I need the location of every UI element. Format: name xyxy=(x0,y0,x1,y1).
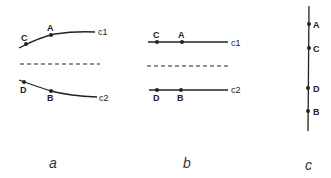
point-b-dot xyxy=(179,88,183,92)
line-c1-label: c1 xyxy=(231,38,241,48)
curve-c1-label: c1 xyxy=(98,27,108,37)
point-a-dot xyxy=(307,22,311,26)
line-c2-label: c2 xyxy=(231,85,241,95)
point-b-label: B xyxy=(313,107,320,117)
point-c-dot xyxy=(307,46,311,50)
panel-b-label: b xyxy=(183,155,191,171)
point-d-label: D xyxy=(153,93,160,103)
point-a-label: A xyxy=(313,20,320,30)
point-a-dot xyxy=(49,33,53,37)
curve-c1 xyxy=(19,32,95,48)
panel-c: A C D B c xyxy=(305,6,320,173)
point-a-label: A xyxy=(178,30,185,40)
point-c-label: C xyxy=(313,44,320,54)
point-c-label: C xyxy=(153,30,160,40)
point-c-label: C xyxy=(21,33,28,43)
point-d-dot xyxy=(22,80,26,84)
point-c-dot xyxy=(155,40,159,44)
panel-c-label: c xyxy=(305,157,312,173)
panel-a: C A c1 D B c2 a xyxy=(19,23,109,171)
point-b-label: B xyxy=(47,93,54,103)
point-a-label: A xyxy=(47,23,54,33)
point-d-dot xyxy=(155,88,159,92)
point-a-dot xyxy=(180,40,184,44)
panel-a-label: a xyxy=(49,155,57,171)
curve-c2 xyxy=(19,80,97,97)
point-b-dot xyxy=(306,109,310,113)
point-d-dot xyxy=(306,86,310,90)
point-d-label: D xyxy=(20,85,27,95)
curve-c2-label: c2 xyxy=(99,93,109,103)
figure: C A c1 D B c2 a C A c1 D B c2 b A xyxy=(0,0,331,178)
panel-b: C A c1 D B c2 b xyxy=(147,30,241,171)
point-b-label: B xyxy=(177,93,184,103)
point-d-label: D xyxy=(313,84,320,94)
